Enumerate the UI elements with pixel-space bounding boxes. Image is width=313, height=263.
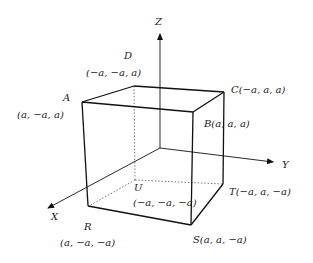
vertex-A-coords: (a, −a, a) — [17, 110, 64, 120]
vertex-D-name: D — [124, 51, 132, 61]
z-axis-label: Z — [155, 17, 162, 27]
edge-D-C — [134, 86, 224, 92]
edge-C-B — [193, 92, 224, 112]
vertex-R-name: R — [84, 222, 92, 232]
edge-D-U — [134, 86, 135, 180]
vertex-A-name: A — [63, 93, 70, 103]
vertex-R-coords: (a, −a, −a) — [60, 238, 115, 248]
edge-A-R — [82, 102, 88, 206]
y-axis — [160, 148, 273, 162]
cube-drawing — [0, 0, 313, 263]
vertex-D-coords: (−a, −a, a) — [86, 68, 141, 78]
edge-U-T — [135, 180, 223, 184]
vertex-S-coords: S(a, a, −a) — [193, 235, 247, 245]
vertex-U-coords: (−a, −a, −a) — [133, 198, 197, 208]
vertex-T-coords: T(−a, a, −a) — [229, 187, 291, 197]
edge-A-D — [82, 86, 134, 102]
vertex-B-coords: B(a, a, a) — [204, 119, 250, 129]
edge-R-S — [88, 206, 191, 225]
edge-C-T — [223, 92, 224, 184]
edge-B-S — [191, 112, 193, 225]
x-axis-label: X — [51, 212, 58, 222]
edge-U-R — [89, 180, 135, 206]
cube-coordinate-diagram: Z Y X A (a, −a, a) D (−a, −a, a) C(−a, a… — [0, 0, 313, 263]
y-axis-label: Y — [282, 160, 289, 170]
edge-B-A — [82, 102, 193, 112]
vertex-U-name: U — [134, 183, 142, 193]
vertex-C-coords: C(−a, a, a) — [231, 85, 285, 95]
